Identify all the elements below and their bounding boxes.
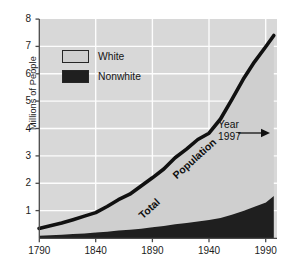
- legend-item-nonwhite: Nonwhite: [62, 68, 141, 84]
- legend-swatch-nonwhite: [62, 70, 89, 83]
- x-tick-label-1790: 1790: [17, 245, 61, 256]
- y-tick-label-4: 4: [15, 123, 31, 134]
- legend-label-nonwhite: Nonwhite: [98, 71, 141, 82]
- y-tick-label-5: 5: [15, 95, 31, 106]
- y-tick-label-1: 1: [15, 205, 31, 216]
- year-callout-line-1: Year: [218, 119, 239, 130]
- chart-legend: White Nonwhite: [62, 48, 141, 88]
- year-callout-line-2: 1997: [218, 131, 241, 143]
- y-tick-label-7: 7: [15, 40, 31, 51]
- x-tick-label-1890: 1890: [130, 245, 174, 256]
- y-tick-label-2: 2: [15, 177, 31, 188]
- year-callout: Year 1997: [218, 119, 241, 142]
- legend-item-white: White: [62, 48, 141, 64]
- y-tick-label-3: 3: [15, 150, 31, 161]
- legend-swatch-white: [62, 50, 89, 63]
- population-area-chart: Millions of People 8 7 6 5 4 3 2 1 1790 …: [0, 0, 282, 265]
- x-tick-label-1990: 1990: [244, 245, 282, 256]
- y-tick-label-6: 6: [15, 68, 31, 79]
- x-tick-label-1840: 1840: [74, 245, 118, 256]
- y-tick-label-8: 8: [15, 13, 31, 24]
- x-tick-label-1940: 1940: [187, 245, 231, 256]
- legend-label-white: White: [98, 51, 124, 62]
